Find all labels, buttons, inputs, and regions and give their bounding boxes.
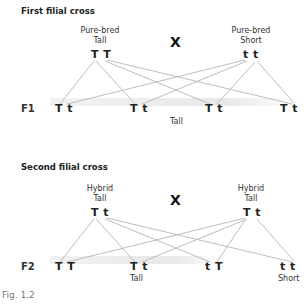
first-left-parent-line1: Pure-bred xyxy=(70,26,130,36)
second-left-parent-genotype: T t xyxy=(91,206,109,219)
first-left-parent-line2: Tall xyxy=(70,36,130,46)
first-cross-symbol: X xyxy=(170,34,181,50)
figure-caption: Fig. 1.2 xyxy=(2,290,35,300)
f1-offspring-2: T t xyxy=(130,102,148,115)
second-left-parent-line1: Hybrid xyxy=(70,184,130,194)
f2-offspring-4: t t xyxy=(280,260,296,273)
first-cross-title: First filial cross xyxy=(21,6,95,16)
f2-short-label: Short xyxy=(278,274,299,283)
f2-generation-label: F2 xyxy=(21,261,35,272)
first-left-parent-genotype: T T xyxy=(91,48,111,61)
first-left-parent-label: Pure-bred Tall xyxy=(70,26,130,46)
f1-offspring-1: T t xyxy=(55,102,73,115)
second-left-parent-line2: Tall xyxy=(70,194,130,204)
first-right-parent-line2: Short xyxy=(221,36,281,46)
f1-phenotype-label: Tall xyxy=(170,117,183,126)
second-cross-title: Second filial cross xyxy=(21,162,108,172)
f2-tall-label: Tall xyxy=(130,274,143,283)
f1-offspring-3: T t xyxy=(205,102,223,115)
f2-offspring-3: t T xyxy=(205,260,223,273)
first-right-parent-line1: Pure-bred xyxy=(221,26,281,36)
second-cross-symbol: X xyxy=(170,192,181,208)
f2-offspring-1: T T xyxy=(55,260,75,273)
second-left-parent-label: Hybrid Tall xyxy=(70,184,130,204)
second-right-parent-genotype: T t xyxy=(243,206,261,219)
second-right-parent-label: Hybrid Tall xyxy=(221,184,281,204)
f1-generation-label: F1 xyxy=(21,103,35,114)
f1-offspring-4: T t xyxy=(280,102,298,115)
second-right-parent-line2: Tall xyxy=(221,194,281,204)
first-right-parent-genotype: t t xyxy=(243,48,259,61)
f2-offspring-2: T t xyxy=(130,260,148,273)
second-right-parent-line1: Hybrid xyxy=(221,184,281,194)
first-right-parent-label: Pure-bred Short xyxy=(221,26,281,46)
